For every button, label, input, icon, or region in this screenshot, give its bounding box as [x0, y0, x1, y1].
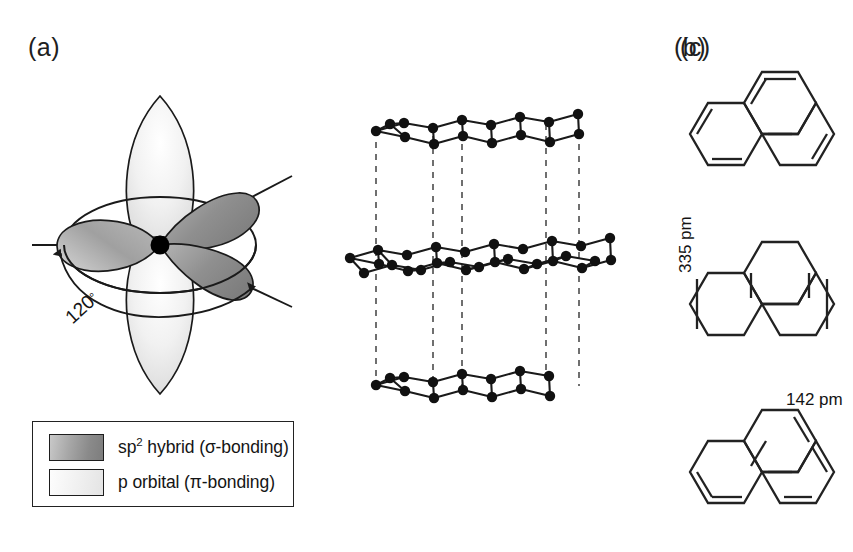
- legend-sp2-pre: sp: [118, 437, 136, 457]
- panel-b-graphite-layers: (b): [330, 0, 660, 552]
- graphite-layer-top: [371, 109, 584, 149]
- legend-label-sp2: sp2 hybrid (σ-bonding): [118, 437, 289, 458]
- legend-row-sp2: sp2 hybrid (σ-bonding): [49, 431, 293, 464]
- legend-sp2-post: hybrid (σ-bonding): [143, 437, 289, 457]
- graphite-layer-bottom: [371, 366, 555, 403]
- sp2-hybrid-swatch: [49, 434, 104, 461]
- graphite-layer-middle: [345, 233, 616, 278]
- carbon-atoms-middle-layer: [345, 233, 616, 278]
- resonance-structures-svg: [660, 0, 853, 552]
- resonance-structure-1: [690, 72, 834, 165]
- legend-label-p-orbital: p orbital (π-bonding): [118, 472, 275, 493]
- orbital-legend: sp2 hybrid (σ-bonding) p orbital (π-bond…: [32, 421, 294, 507]
- graphite-stacking-svg: [330, 0, 660, 552]
- resonance-structure-3: [690, 410, 834, 503]
- carbon-atoms-top-layer: [371, 109, 584, 149]
- p-orbital-swatch: [49, 469, 104, 496]
- panel-c-resonance-structures: (c): [660, 0, 853, 552]
- resonance-structure-2: [690, 242, 834, 335]
- sp2-orbital-svg: [0, 0, 330, 420]
- legend-row-p-orbital: p orbital (π-bonding): [49, 466, 293, 499]
- figure-root: (a): [0, 0, 853, 552]
- panel-a-sp2-orbitals: (a): [0, 0, 330, 552]
- carbon-nucleus: [151, 236, 170, 255]
- double-bond-inner-lines-2: [697, 273, 827, 329]
- legend-p-text: p orbital (π-bonding): [118, 472, 275, 492]
